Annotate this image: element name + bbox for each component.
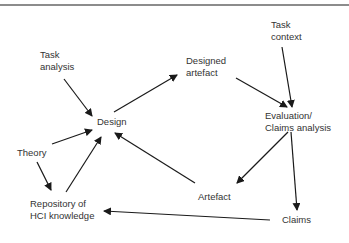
node-repository-hci-knowledge: Repository of HCI knowledge [30,198,94,222]
node-label: HCI knowledge [30,210,94,222]
node-label: artefact [186,67,226,79]
edge-evaluation-claims [291,132,297,210]
node-label: analysis [40,61,74,73]
node-label: Evaluation/ [265,110,331,122]
node-task-analysis: Task analysis [40,49,74,73]
node-label: Task [40,49,74,61]
node-task-context: Task context [271,19,302,43]
edge-task-context-evaluation [282,47,292,107]
edge-theory-design [52,130,92,144]
node-label: Artefact [198,191,231,203]
node-evaluation-claims-analysis: Evaluation/ Claims analysis [265,110,331,134]
edge-evaluation-artefact [237,132,288,183]
node-label: Task [271,19,302,31]
edge-claims-repository [104,211,270,220]
node-label: Claims analysis [265,122,331,134]
edge-task-analysis-design [64,79,92,116]
edge-repository-design [66,137,101,192]
node-label: Theory [17,147,47,159]
node-label: Repository of [30,198,94,210]
edge-theory-repository [37,162,51,190]
edge-design-designed-artefact [114,75,177,112]
node-theory: Theory [17,147,47,159]
node-label: Design [97,116,127,128]
node-design: Design [97,116,127,128]
edge-artefact-design [115,133,195,183]
node-artefact: Artefact [198,191,231,203]
node-claims: Claims [282,214,311,226]
edge-designed-artefact-evaluation [236,78,287,107]
node-label: context [271,31,302,43]
node-label: Claims [282,214,311,226]
node-designed-artefact: Designed artefact [186,55,226,79]
node-label: Designed [186,55,226,67]
